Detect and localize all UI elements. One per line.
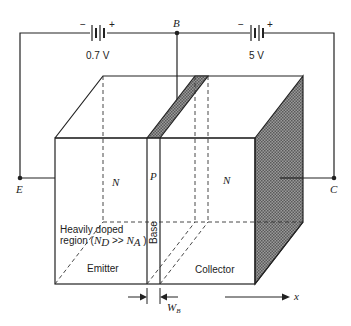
node-e-dot <box>18 176 23 181</box>
block-front-face <box>55 138 255 284</box>
battery-emitter-base-icon <box>92 25 104 41</box>
base-label: Base <box>148 221 159 244</box>
node-c-dot <box>332 176 337 181</box>
x-axis-label: x <box>293 290 299 302</box>
bjt-diagram: − + 0.7 V − + 5 V B E C <box>0 0 351 326</box>
battery1-minus: − <box>80 19 86 30</box>
emitter-label: Emitter <box>87 263 119 274</box>
annotation-line1: Heavily doped <box>60 224 123 235</box>
battery2-plus: + <box>267 19 273 30</box>
battery-collector-base-icon <box>251 25 263 41</box>
collector-label: Collector <box>195 264 235 275</box>
battery2-minus: − <box>238 19 244 30</box>
node-c-label: C <box>330 183 338 195</box>
annotation-line2: region (ND >> NA ) <box>60 234 147 248</box>
collector-type-label: N <box>222 174 231 186</box>
base-width-label: WB <box>167 301 181 315</box>
battery1-plus: + <box>109 19 115 30</box>
node-b-label: B <box>173 17 180 29</box>
battery2-voltage: 5 V <box>249 50 264 61</box>
node-b-dot <box>175 31 180 36</box>
battery1-voltage: 0.7 V <box>86 50 110 61</box>
x-axis-arrow-icon <box>225 294 290 301</box>
base-type-label: P <box>149 170 157 182</box>
emitter-type-label: N <box>111 176 120 188</box>
node-e-label: E <box>15 183 23 195</box>
